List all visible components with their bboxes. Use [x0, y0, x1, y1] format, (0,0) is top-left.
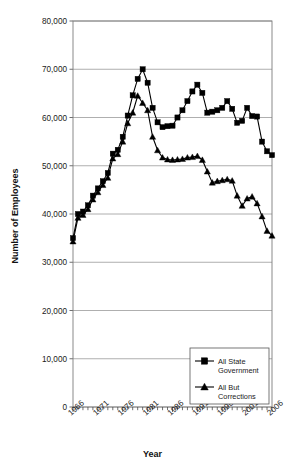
marker-triangle — [150, 134, 156, 140]
y-tick-label-80000: 80,000 — [42, 17, 67, 26]
legend-label-1-line1: All But — [218, 383, 239, 392]
marker-square — [190, 89, 195, 94]
marker-triangle — [204, 168, 210, 174]
legend-label-0-line2: Government — [218, 366, 259, 375]
marker-square — [170, 123, 175, 128]
marker-triangle — [224, 176, 230, 182]
marker-square — [210, 109, 215, 114]
marker-square — [135, 76, 140, 81]
marker-square — [155, 120, 160, 125]
marker-square — [245, 105, 250, 110]
marker-square — [145, 80, 150, 85]
y-tick-label-20000: 20,000 — [42, 307, 67, 316]
y-tick-label-10000: 10,000 — [42, 355, 67, 364]
marker-square — [195, 82, 200, 87]
marker-triangle — [249, 194, 255, 200]
legend-marker-square — [201, 358, 207, 364]
legend-label-0-line1: All State — [218, 357, 246, 366]
marker-square — [240, 118, 245, 123]
y-tick-label-50000: 50,000 — [42, 162, 67, 171]
marker-triangle — [135, 93, 141, 99]
y-tick-label-60000: 60,000 — [42, 114, 67, 123]
y-axis-title: Number of Employees — [10, 168, 20, 263]
marker-square — [140, 67, 145, 72]
marker-square — [225, 98, 230, 103]
x-axis-title: Year — [143, 449, 163, 459]
marker-square — [250, 113, 255, 118]
employees-line-chart: 010,00020,00030,00040,00050,00060,00070,… — [0, 0, 288, 466]
marker-square — [130, 93, 135, 98]
marker-square — [165, 124, 170, 129]
marker-triangle — [234, 193, 240, 199]
marker-square — [175, 115, 180, 120]
marker-square — [254, 114, 259, 119]
y-tick-label-30000: 30,000 — [42, 258, 67, 267]
marker-square — [200, 90, 205, 95]
marker-square — [259, 139, 264, 144]
series-line-0 — [73, 69, 272, 238]
y-tick-label-70000: 70,000 — [42, 65, 67, 74]
marker-square — [150, 105, 155, 110]
marker-square — [160, 125, 165, 130]
marker-square — [125, 113, 130, 118]
marker-triangle — [154, 147, 160, 153]
marker-square — [230, 106, 235, 111]
marker-triangle — [130, 110, 136, 116]
marker-square — [205, 110, 210, 115]
marker-triangle — [264, 228, 270, 234]
marker-triangle — [194, 153, 200, 159]
y-tick-label-40000: 40,000 — [42, 210, 67, 219]
chart-container: 010,00020,00030,00040,00050,00060,00070,… — [0, 0, 288, 466]
marker-square — [269, 153, 274, 158]
marker-square — [235, 120, 240, 125]
marker-square — [185, 98, 190, 103]
marker-square — [264, 149, 269, 154]
legend-label-1-line2: Corrections — [218, 392, 256, 401]
marker-square — [180, 108, 185, 113]
marker-square — [220, 105, 225, 110]
marker-square — [215, 108, 220, 113]
